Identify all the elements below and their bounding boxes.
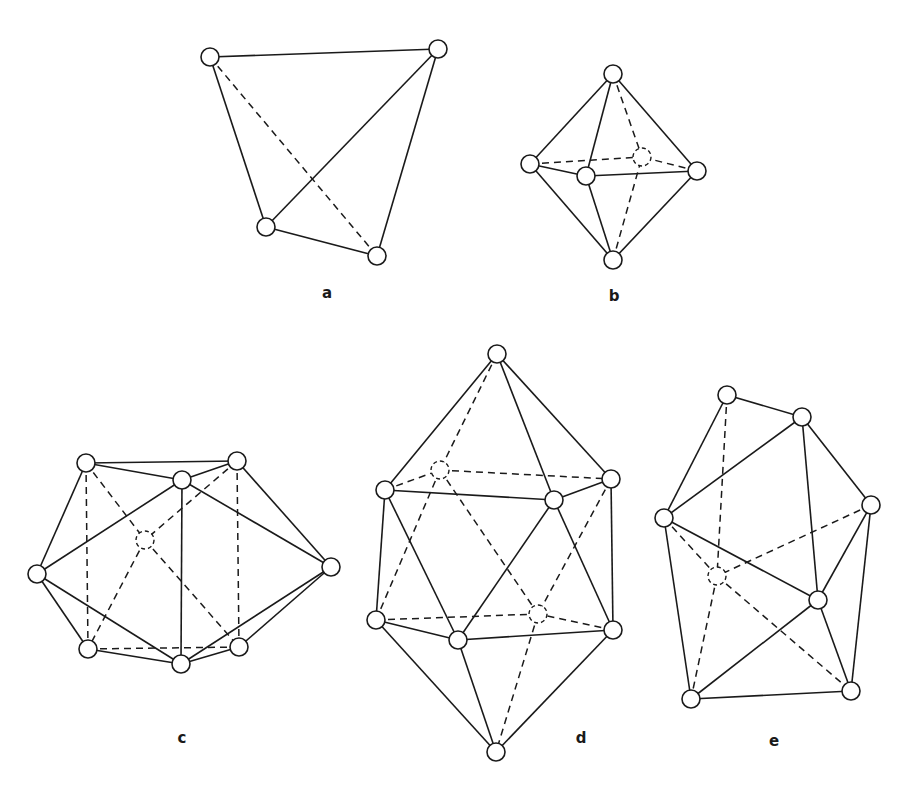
vertex [577,167,595,185]
visible-edge [458,640,496,752]
visible-edge [664,518,818,600]
visible-edge [530,164,613,260]
vertex [862,496,880,514]
hidden-edge [440,470,611,479]
visible-edge [376,620,458,640]
panel-label-e: e [769,732,779,750]
vertex [228,452,246,470]
vertex [230,638,248,656]
visible-edge [239,567,331,647]
vertex [688,162,706,180]
visible-edge [86,463,182,480]
hidden-vertex [431,461,449,479]
panel-a [201,40,447,265]
hidden-edge [717,505,871,576]
visible-edge [851,505,871,691]
visible-edge [497,354,611,479]
visible-edge [376,490,385,620]
hidden-edge [538,614,613,630]
visible-edge [497,354,554,500]
visible-edge [376,620,496,752]
visible-edge [237,461,331,567]
panel-d [367,345,622,761]
visible-edge [385,490,554,500]
vertex [809,591,827,609]
hidden-edge [88,647,239,649]
panel-label-d: d [576,729,587,747]
vertex [173,471,191,489]
vertex [793,408,811,426]
vertex [77,454,95,472]
hidden-vertex [136,531,154,549]
hidden-edge [376,614,538,620]
hidden-vertex [529,605,547,623]
visible-edge [586,176,613,260]
vertex [368,247,386,265]
vertex [488,345,506,363]
panel-label-b: b [609,287,620,305]
hidden-edge [145,540,239,647]
visible-edge [586,171,697,176]
visible-edge [691,600,818,699]
visible-edge [554,500,613,630]
visible-edge [611,479,613,630]
visible-edge [210,57,266,227]
vertex [545,491,563,509]
visible-edge [88,649,181,664]
hidden-edge [86,463,145,540]
visible-edge [37,574,88,649]
visible-edge [266,227,377,256]
visible-edge [613,171,697,260]
hidden-edge [86,463,88,649]
visible-edge [210,49,438,57]
visible-edge [664,417,802,518]
visible-edge [613,74,697,171]
visible-edge [727,395,802,417]
vertex [602,470,620,488]
vertex [718,386,736,404]
vertex [842,682,860,700]
visible-edge [86,461,237,463]
visible-edge [458,630,613,640]
vertex [172,655,190,673]
panel-c [28,452,340,673]
vertex [604,65,622,83]
vertex [604,621,622,639]
vertex [604,251,622,269]
visible-edge [496,630,613,752]
visible-edge [664,395,727,518]
hidden-vertex [708,567,726,585]
hidden-edge [440,470,538,614]
hidden-vertex [633,148,651,166]
vertex [322,558,340,576]
panel-label-a: a [322,284,332,302]
panel-e [655,386,880,708]
visible-edge [181,480,182,664]
vertex [28,565,46,583]
vertex [449,631,467,649]
vertex [655,509,673,527]
vertex [79,640,97,658]
visible-edge [37,574,181,664]
hidden-edge [145,461,237,540]
vertex [367,611,385,629]
panel-label-c: c [178,729,187,747]
visible-edge [664,518,691,699]
vertex [376,481,394,499]
hidden-edge [210,57,377,256]
visible-edge [385,490,458,640]
hidden-edge [88,540,145,649]
visible-edge [802,417,871,505]
hidden-edge [613,74,642,157]
vertex [487,743,505,761]
vertex [429,40,447,58]
visible-edge [818,600,851,691]
panel-b [521,65,706,269]
polyhedra-diagram: a b c d e [0,0,915,794]
visible-edge [182,480,331,567]
hidden-edge [530,157,642,164]
vertex [257,218,275,236]
visible-edge [802,417,818,600]
hidden-edge [691,576,717,699]
visible-edge [181,567,331,664]
